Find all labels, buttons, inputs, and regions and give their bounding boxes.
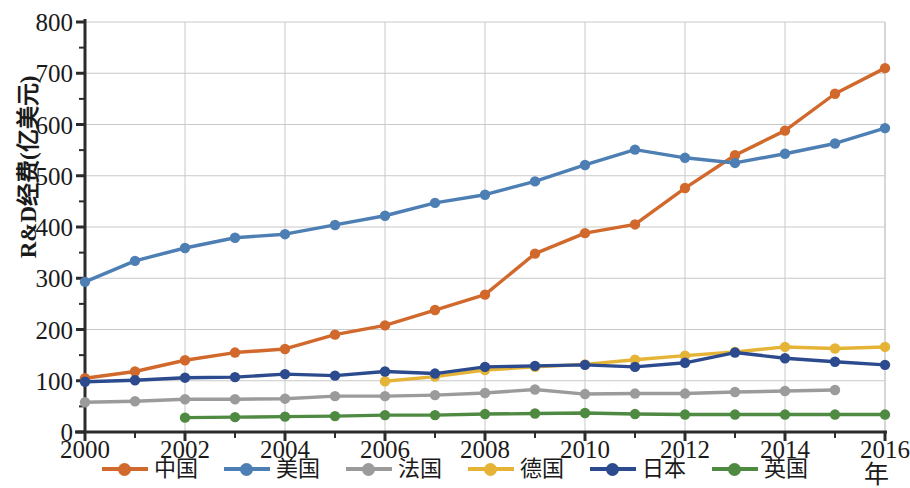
data-point bbox=[730, 387, 740, 397]
data-point bbox=[680, 358, 690, 368]
data-point bbox=[230, 347, 240, 357]
data-point bbox=[280, 369, 290, 379]
data-point bbox=[830, 343, 840, 353]
y-tick-600: 600 bbox=[0, 112, 73, 137]
data-point bbox=[680, 153, 690, 163]
data-point bbox=[680, 409, 690, 419]
legend-marker-icon bbox=[712, 462, 758, 476]
data-point bbox=[480, 190, 490, 200]
y-tick-400: 400 bbox=[0, 215, 73, 240]
legend-marker-icon bbox=[102, 462, 148, 476]
data-point bbox=[780, 342, 790, 352]
legend-marker-icon bbox=[346, 462, 392, 476]
data-point bbox=[880, 63, 890, 73]
data-point bbox=[330, 391, 340, 401]
data-point bbox=[530, 408, 540, 418]
legend-item-4[interactable]: 日本 bbox=[590, 458, 686, 480]
data-point bbox=[330, 329, 340, 339]
data-point bbox=[530, 384, 540, 394]
data-point bbox=[130, 256, 140, 266]
data-point bbox=[280, 393, 290, 403]
data-point bbox=[180, 355, 190, 365]
legend-label: 法国 bbox=[397, 458, 442, 480]
data-point bbox=[780, 409, 790, 419]
data-point bbox=[480, 289, 490, 299]
data-point bbox=[530, 361, 540, 371]
data-point bbox=[180, 243, 190, 253]
data-point bbox=[780, 149, 790, 159]
data-point bbox=[830, 409, 840, 419]
data-point bbox=[530, 176, 540, 186]
data-point bbox=[430, 390, 440, 400]
data-point bbox=[780, 353, 790, 363]
data-point bbox=[530, 248, 540, 258]
data-point bbox=[680, 183, 690, 193]
data-point bbox=[580, 408, 590, 418]
data-point bbox=[830, 89, 840, 99]
data-point bbox=[880, 342, 890, 352]
legend-item-5[interactable]: 英国 bbox=[712, 458, 808, 480]
data-point bbox=[830, 138, 840, 148]
data-point bbox=[180, 372, 190, 382]
data-point bbox=[230, 412, 240, 422]
data-point bbox=[130, 375, 140, 385]
legend-item-3[interactable]: 德国 bbox=[468, 458, 564, 480]
y-tick-100: 100 bbox=[0, 368, 73, 393]
data-point bbox=[380, 211, 390, 221]
legend-marker-icon bbox=[590, 462, 636, 476]
data-point bbox=[580, 228, 590, 238]
y-tick-500: 500 bbox=[0, 163, 73, 188]
data-point bbox=[380, 376, 390, 386]
data-point bbox=[330, 220, 340, 230]
data-point bbox=[80, 397, 90, 407]
data-point bbox=[730, 347, 740, 357]
chart-legend: 中国美国法国德国日本英国 bbox=[0, 458, 909, 480]
data-point bbox=[380, 391, 390, 401]
data-point bbox=[880, 123, 890, 133]
data-point bbox=[880, 409, 890, 419]
data-point bbox=[480, 362, 490, 372]
y-tick-300: 300 bbox=[0, 266, 73, 291]
data-point bbox=[380, 366, 390, 376]
y-tick-200: 200 bbox=[0, 317, 73, 342]
data-point bbox=[630, 144, 640, 154]
data-point bbox=[730, 158, 740, 168]
data-point bbox=[330, 411, 340, 421]
data-point bbox=[230, 394, 240, 404]
data-point bbox=[280, 411, 290, 421]
data-point bbox=[630, 219, 640, 229]
legend-item-1[interactable]: 美国 bbox=[224, 458, 320, 480]
data-point bbox=[330, 370, 340, 380]
data-point bbox=[730, 409, 740, 419]
data-point bbox=[580, 360, 590, 370]
data-point bbox=[830, 385, 840, 395]
series-line-2 bbox=[85, 389, 835, 402]
data-point bbox=[380, 320, 390, 330]
data-point bbox=[430, 305, 440, 315]
legend-label: 德国 bbox=[519, 458, 564, 480]
legend-item-0[interactable]: 中国 bbox=[102, 458, 198, 480]
data-point bbox=[780, 125, 790, 135]
data-point bbox=[630, 362, 640, 372]
y-tick-700: 700 bbox=[0, 61, 73, 86]
data-point bbox=[80, 277, 90, 287]
data-point bbox=[580, 389, 590, 399]
legend-label: 美国 bbox=[275, 458, 320, 480]
data-point bbox=[430, 410, 440, 420]
data-point bbox=[680, 388, 690, 398]
data-point bbox=[430, 198, 440, 208]
data-point bbox=[180, 412, 190, 422]
data-point bbox=[230, 233, 240, 243]
data-point bbox=[630, 388, 640, 398]
data-point bbox=[480, 388, 490, 398]
legend-marker-icon bbox=[468, 462, 514, 476]
legend-item-2[interactable]: 法国 bbox=[346, 458, 442, 480]
data-point bbox=[780, 386, 790, 396]
data-point bbox=[380, 410, 390, 420]
data-point bbox=[280, 344, 290, 354]
data-point bbox=[830, 357, 840, 367]
data-point bbox=[580, 160, 590, 170]
data-point bbox=[480, 409, 490, 419]
